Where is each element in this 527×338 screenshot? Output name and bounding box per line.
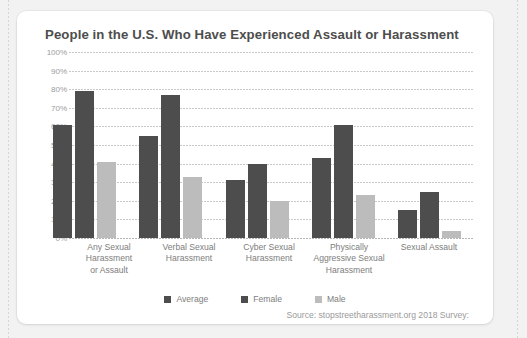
- bar-male: [356, 195, 375, 238]
- legend-item-female[interactable]: Female: [241, 294, 282, 304]
- page-edge-guide-right: [517, 0, 518, 338]
- bar-female: [75, 91, 94, 238]
- category-axis-labels: Any SexualHarassmentor AssaultVerbal Sex…: [69, 242, 469, 276]
- bar-average: [226, 180, 245, 238]
- bar-average: [312, 158, 331, 238]
- legend-swatch-icon: [241, 296, 248, 303]
- chart-plot-area: 0%10%20%30%40%50%60%70%80%90%100%: [41, 52, 473, 238]
- category-label: PhysicallyAggressive SexualHarassment: [309, 242, 389, 276]
- bar-female: [420, 192, 439, 239]
- page-edge-guide-left: [8, 0, 9, 338]
- legend-item-male[interactable]: Male: [315, 294, 346, 304]
- bar-female: [248, 164, 267, 238]
- bar-female: [161, 95, 180, 238]
- category-label: Any SexualHarassmentor Assault: [69, 242, 149, 276]
- gridline: [69, 238, 473, 239]
- bar-group: [387, 52, 473, 238]
- category-label: Verbal SexualHarassment: [149, 242, 229, 276]
- chart-legend: AverageFemaleMale: [17, 294, 493, 304]
- legend-label: Average: [176, 294, 208, 304]
- bar-group: [300, 52, 386, 238]
- legend-swatch-icon: [315, 296, 322, 303]
- legend-label: Male: [327, 294, 346, 304]
- bar-groups: [41, 52, 473, 238]
- bar-average: [139, 136, 158, 238]
- legend-label: Female: [253, 294, 282, 304]
- category-label: Sexual Assault: [389, 242, 469, 276]
- bar-male: [183, 177, 202, 238]
- bar-male: [270, 201, 289, 238]
- bar-group: [214, 52, 300, 238]
- bar-average: [53, 125, 72, 238]
- source-note: Source: stopstreetharassment.org 2018 Su…: [287, 310, 469, 320]
- bar-male: [442, 231, 461, 238]
- chart-card: People in the U.S. Who Have Experienced …: [17, 11, 493, 324]
- bar-male: [97, 162, 116, 238]
- bar-group: [41, 52, 127, 238]
- legend-item-average[interactable]: Average: [164, 294, 208, 304]
- legend-swatch-icon: [164, 296, 171, 303]
- category-label: Cyber SexualHarassment: [229, 242, 309, 276]
- bar-group: [127, 52, 213, 238]
- bar-average: [398, 210, 417, 238]
- bar-female: [334, 125, 353, 238]
- page-title: People in the U.S. Who Have Experienced …: [45, 27, 459, 42]
